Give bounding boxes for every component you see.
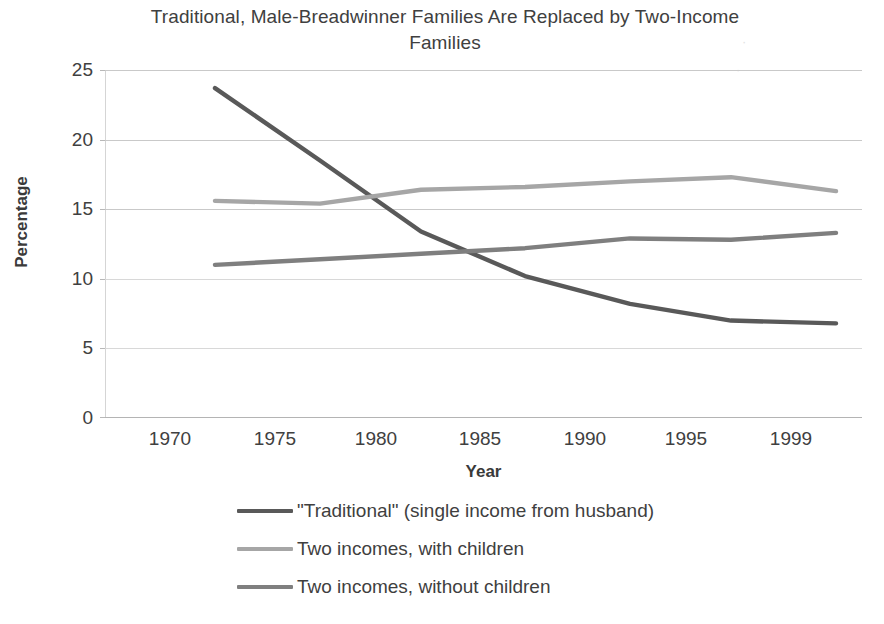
chart-title: Traditional, Male-Breadwinner Families A… xyxy=(140,4,750,56)
legend-label: Two incomes, with children xyxy=(297,538,524,560)
legend-item[interactable]: Two incomes, with children xyxy=(0,530,884,568)
plot-area xyxy=(105,70,862,418)
x-axis-title: Year xyxy=(105,462,862,482)
y-axis-tick-labels: 25 20 15 10 5 0 xyxy=(45,70,93,418)
y-tick-label: 25 xyxy=(53,59,93,81)
y-tick-label: 0 xyxy=(53,407,93,429)
series-line-two-incomes-without-children xyxy=(215,233,836,265)
x-tick-label: 1985 xyxy=(435,428,525,450)
legend-item[interactable]: Two incomes, without children xyxy=(0,568,884,606)
scan-artifact: · xyxy=(742,34,746,49)
x-tick-label: 1970 xyxy=(125,428,215,450)
series-line-two-incomes-with-children xyxy=(215,177,836,203)
y-tick-label: 15 xyxy=(53,198,93,220)
legend-swatch-icon xyxy=(237,547,293,551)
chart-legend: "Traditional" (single income from husban… xyxy=(0,492,884,606)
x-tick-label: 1999 xyxy=(746,428,836,450)
x-axis-tick-labels: 1970 1975 1980 1985 1990 1995 1999 xyxy=(105,428,862,456)
series-layer xyxy=(105,70,862,418)
y-tick-label: 20 xyxy=(53,129,93,151)
y-axis-title: Percentage xyxy=(12,162,32,282)
series-line-traditional xyxy=(215,88,836,323)
legend-item[interactable]: "Traditional" (single income from husban… xyxy=(0,492,884,530)
y-tick-label: 5 xyxy=(53,337,93,359)
legend-swatch-icon xyxy=(237,509,293,513)
legend-label: "Traditional" (single income from husban… xyxy=(297,500,654,522)
line-chart: Traditional, Male-Breadwinner Families A… xyxy=(0,0,884,624)
x-tick-label: 1975 xyxy=(230,428,320,450)
legend-swatch-icon xyxy=(237,585,293,589)
x-tick-label: 1990 xyxy=(540,428,630,450)
y-tick-label: 10 xyxy=(53,268,93,290)
x-tick-label: 1995 xyxy=(641,428,731,450)
x-tick-label: 1980 xyxy=(331,428,421,450)
legend-label: Two incomes, without children xyxy=(297,576,550,598)
